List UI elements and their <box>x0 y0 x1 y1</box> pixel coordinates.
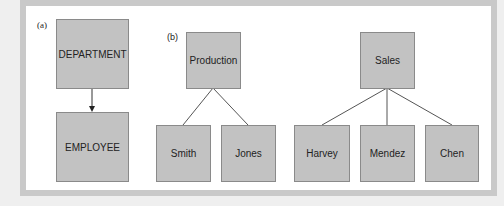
jones-box: Jones <box>221 125 276 182</box>
chen-box: Chen <box>425 125 479 182</box>
mendez-box: Mendez <box>360 125 415 182</box>
production-box: Production <box>186 32 241 89</box>
panel-a-label: (a) <box>37 20 47 30</box>
smith-box: Smith <box>156 125 211 182</box>
sales-box: Sales <box>360 32 415 89</box>
harvey-box: Harvey <box>294 125 350 182</box>
panel-b-label: (b) <box>167 32 178 42</box>
employee-box: EMPLOYEE <box>56 112 129 182</box>
department-box: DEPARTMENT <box>56 19 129 89</box>
